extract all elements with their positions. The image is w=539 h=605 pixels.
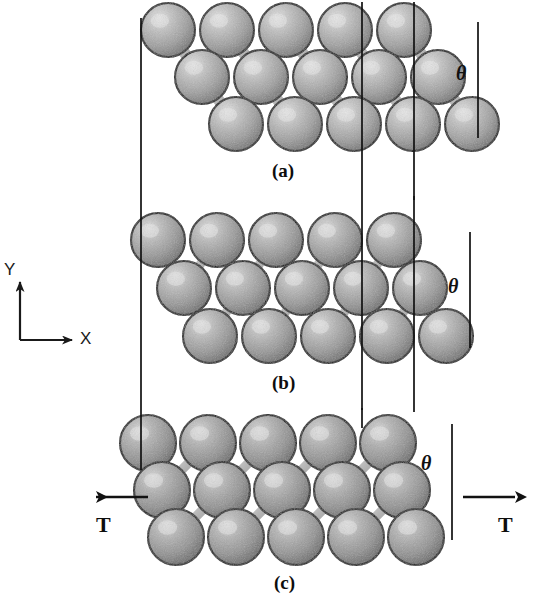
atom-sphere (445, 97, 499, 151)
theta-label-a: θ (456, 62, 466, 85)
atom-sphere (334, 261, 388, 315)
panel-caption-b: (b) (272, 372, 295, 394)
atom-sphere (157, 261, 211, 315)
axis-label-y: Y (4, 260, 15, 280)
atom-panel-c (120, 415, 444, 565)
atom-sphere (419, 309, 473, 363)
atom-sphere (308, 213, 362, 267)
atom-sphere (367, 213, 421, 267)
atom-sphere (352, 50, 406, 104)
atom-sphere (388, 509, 444, 565)
panel-caption-a: (a) (272, 160, 294, 182)
atom-sphere (268, 509, 324, 565)
atom-sphere (175, 50, 229, 104)
atom-sphere (141, 3, 195, 57)
atom-sphere (200, 3, 254, 57)
figure-canvas (0, 0, 539, 605)
atom-sphere (393, 261, 447, 315)
tension-label-right: T (498, 512, 513, 538)
atom-sphere (327, 97, 381, 151)
atom-sphere (377, 3, 431, 57)
coordinate-axes (20, 282, 72, 340)
atom-sphere (301, 309, 355, 363)
atom-sphere (183, 309, 237, 363)
atom-sphere (216, 261, 270, 315)
atom-sphere (234, 50, 288, 104)
atom-sphere (208, 509, 264, 565)
tension-label-left: T (96, 512, 111, 538)
theta-label-b: θ (448, 275, 458, 298)
atom-sphere (318, 3, 372, 57)
panel-caption-c: (c) (274, 572, 295, 594)
atom-sphere (209, 97, 263, 151)
atom-sphere (328, 509, 384, 565)
lattice-layer (120, 3, 499, 565)
atom-sphere (360, 309, 414, 363)
atom-sphere (293, 50, 347, 104)
axis-label-x: X (80, 329, 91, 349)
atom-panel-b (131, 213, 473, 363)
atom-panel-a (141, 3, 499, 151)
atom-sphere (190, 213, 244, 267)
atom-sphere (268, 97, 322, 151)
atom-sphere (249, 213, 303, 267)
atom-sphere (259, 3, 313, 57)
figure-root: (a) (b) (c) θ θ θ T T X Y (0, 0, 539, 605)
atom-sphere (131, 213, 185, 267)
atom-sphere (386, 97, 440, 151)
atom-sphere (275, 261, 329, 315)
atom-sphere (242, 309, 296, 363)
theta-label-c: θ (421, 452, 431, 475)
atom-sphere (148, 509, 204, 565)
